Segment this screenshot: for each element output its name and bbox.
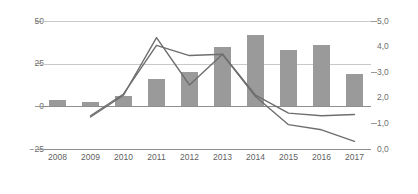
x-axis-label-2008: 2008	[41, 152, 74, 162]
right-axis-tick-00: 0,0	[377, 145, 413, 153]
line-series-a	[91, 38, 355, 142]
x-axis-label-2017: 2017	[338, 152, 371, 162]
plot-area	[41, 21, 371, 149]
right-axis-tick-40: 4,0	[377, 42, 413, 50]
x-axis-label-2016: 2016	[305, 152, 338, 162]
right-axis-dash-10	[371, 123, 377, 124]
x-axis-label-2013: 2013	[206, 152, 239, 162]
x-axis-label-2011: 2011	[140, 152, 173, 162]
right-axis-dash-50	[371, 21, 377, 22]
x-axis-label-2014: 2014	[239, 152, 272, 162]
bar-line-combo-chart: 50 25 0 −25 5,0 4,0 3,0 2,0 1,0 0,0 2008…	[0, 0, 418, 194]
axis-baseline	[41, 149, 371, 150]
right-axis-tick-50: 5,0	[377, 17, 413, 25]
x-axis-label-2015: 2015	[272, 152, 305, 162]
right-axis-tick-10: 1,0	[377, 119, 413, 127]
x-axis-label-2012: 2012	[173, 152, 206, 162]
right-axis-tick-30: 3,0	[377, 68, 413, 76]
line-series-b	[91, 45, 355, 115]
right-axis-dash-30	[371, 72, 377, 73]
right-axis-tick-20: 2,0	[377, 93, 413, 101]
line-series-layer	[41, 21, 371, 149]
x-axis-label-2010: 2010	[107, 152, 140, 162]
x-axis-label-2009: 2009	[74, 152, 107, 162]
